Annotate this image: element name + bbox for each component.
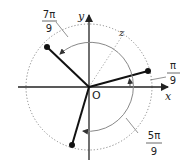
y-axis-label: y [77, 10, 85, 23]
leader-5pi-over-9 [126, 118, 138, 133]
angle-7pi-numerator: 7π [43, 9, 55, 20]
angle-5pi-denominator: 9 [151, 146, 157, 157]
point-pi-over-9 [145, 68, 151, 74]
arc-pi-over-9 [130, 79, 131, 87]
leader-7pi-over-9 [56, 22, 68, 37]
segment-5pi-over-9 [72, 87, 89, 145]
z-label: z [118, 27, 125, 38]
diagram-canvas: y x z O 7π 9 π 9 5π 9 [0, 0, 188, 165]
angle-pi-denominator: 9 [170, 75, 176, 86]
x-axis-label: x [165, 90, 172, 103]
point-5pi-over-9 [69, 142, 75, 148]
arc-7pi-over-9 [60, 42, 112, 54]
angle-7pi-denominator: 9 [46, 23, 52, 34]
arc-5pi-over-9 [83, 48, 133, 131]
leader-pi-over-9 [150, 77, 166, 80]
point-7pi-over-9 [44, 44, 50, 50]
segment-7pi-over-9 [47, 47, 89, 87]
angle-5pi-numerator: 5π [148, 130, 160, 141]
angle-pi-numerator: π [170, 60, 176, 71]
unit-circle-diagram: y x z O 7π 9 π 9 5π 9 [0, 0, 188, 165]
origin-label: O [92, 89, 101, 102]
